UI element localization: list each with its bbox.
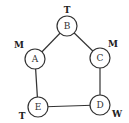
node-tag-A: M [14, 41, 24, 50]
node-label: B [64, 21, 71, 31]
node-label: E [35, 102, 42, 112]
node-C: C [90, 48, 110, 68]
node-A: A [25, 49, 45, 69]
node-E: E [28, 97, 48, 117]
node-D: D [90, 95, 110, 115]
node-tag-C: M [108, 40, 118, 49]
node-tag-E: T [19, 112, 26, 121]
node-B: B [57, 16, 77, 36]
node-label: D [96, 100, 103, 110]
node-label: C [97, 53, 104, 63]
graph-canvas: BACED [0, 0, 129, 123]
node-tag-D: W [112, 110, 122, 119]
node-label: A [31, 54, 39, 64]
graph-diagram: BACED TMMTW [0, 0, 129, 123]
node-tag-B: T [64, 6, 71, 15]
